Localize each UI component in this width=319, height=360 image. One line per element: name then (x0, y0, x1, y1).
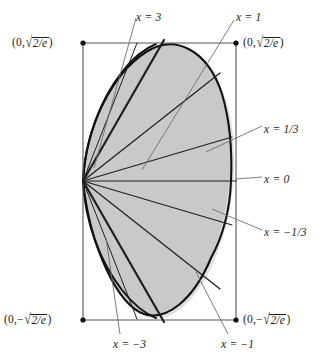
param-label-x-eq-neg-1: x = −1 (221, 339, 254, 351)
corner-label-open: (0, (243, 313, 256, 325)
corner-label-bottom-left: (0,−√2/e) (4, 313, 51, 326)
param-label-x-eq-1: x = 1 (236, 12, 261, 24)
corner-label-top-right: (0,√2/e) (243, 36, 284, 49)
corner-label-value: 2/e (269, 314, 286, 327)
param-label-x-eq-1-3: x = 1/3 (264, 124, 299, 136)
dot-top-right (233, 40, 238, 45)
dot-bottom-right (233, 317, 238, 322)
param-label-x-eq-3: x = 3 (136, 12, 161, 24)
param-label-x-eq-neg-1-3: x = −1/3 (264, 227, 307, 239)
leader-x-eq-neg-1 (196, 272, 228, 334)
shaded-region (83, 44, 231, 315)
leader-x-eq-0 (236, 177, 262, 179)
corner-label-value: 2/e (263, 37, 280, 50)
corner-label-bottom-right: (0,−√2/e) (243, 313, 290, 326)
param-label-x-eq-neg-3: x = −3 (113, 339, 146, 351)
corner-label-open: (0, (4, 313, 17, 325)
corner-label-sign: − (17, 313, 24, 325)
corner-label-open: (0, (243, 36, 256, 48)
corner-label-value: 2/e (30, 314, 47, 327)
corner-label-sign: − (256, 313, 263, 325)
corner-label-close: ) (49, 36, 53, 48)
param-label-x-eq-0: x = 0 (264, 174, 289, 186)
corner-label-close: ) (286, 313, 290, 325)
dot-bottom-left (80, 317, 85, 322)
dot-top-left (80, 40, 85, 45)
corner-label-value: 2/e (32, 37, 49, 50)
corner-label-top-left: (0,√2/e) (12, 36, 53, 49)
corner-label-close: ) (280, 36, 284, 48)
corner-label-open: (0, (12, 36, 25, 48)
corner-label-close: ) (47, 313, 51, 325)
